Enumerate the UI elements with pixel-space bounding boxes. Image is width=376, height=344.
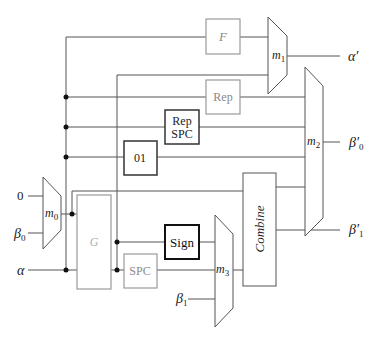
- label-combine: Combine: [252, 205, 267, 252]
- junction-dot: [115, 240, 120, 245]
- junction-dot: [115, 268, 120, 273]
- input-alpha: α: [17, 263, 25, 278]
- junction-dot: [64, 268, 69, 273]
- label-repspc-2: SPC: [171, 127, 192, 141]
- junction-dot: [64, 155, 69, 160]
- output-beta0-prime: β′0: [348, 135, 364, 152]
- circuit-diagram: F Rep Rep SPC 01 G Sign SPC Combine m1 m…: [0, 0, 376, 344]
- junction-dot: [64, 95, 69, 100]
- output-beta1-prime: β′1: [348, 222, 364, 239]
- label-repspc-1: Rep: [172, 114, 191, 128]
- output-alpha-prime: α′: [348, 49, 359, 64]
- label-sign: Sign: [170, 235, 194, 250]
- label-g: G: [90, 235, 99, 249]
- junction-dot: [64, 125, 69, 130]
- mux-m2: [305, 67, 323, 236]
- label-spc: SPC: [129, 264, 150, 278]
- input-zero: 0: [17, 188, 24, 203]
- input-beta0: β0: [13, 226, 26, 243]
- junction-dot: [70, 212, 75, 217]
- label-01: 01: [134, 151, 146, 165]
- input-beta1: β1: [175, 291, 187, 308]
- label-f: F: [218, 29, 228, 44]
- label-rep: Rep: [213, 90, 232, 104]
